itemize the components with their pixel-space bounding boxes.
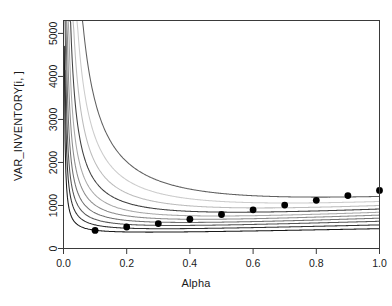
- chart-root: 0.00.20.40.60.81.0010002000300040005000 …: [0, 0, 392, 306]
- y-axis-title: VAR_INVENTORY[i, ]: [12, 46, 24, 206]
- x-tick-label: 0.2: [119, 257, 134, 269]
- curves-group: [64, 21, 380, 233]
- y-tick-label: 5000: [47, 22, 59, 46]
- series-line-5: [67, 21, 380, 220]
- x-tick-label: 1.0: [372, 257, 387, 269]
- x-tick-label: 0.0: [56, 257, 71, 269]
- data-point: [313, 197, 320, 204]
- y-tick-label: 0: [47, 245, 59, 251]
- y-tick-label: 1000: [47, 194, 59, 218]
- series-line-8: [72, 21, 379, 208]
- x-tick-label: 0.6: [246, 257, 261, 269]
- y-tick-label: 2000: [47, 151, 59, 175]
- data-point: [92, 227, 99, 234]
- series-line-7: [70, 21, 380, 213]
- plot-canvas: 0.00.20.40.60.81.0010002000300040005000: [0, 0, 392, 306]
- series-line-10: [80, 21, 379, 198]
- series-line-2: [65, 70, 379, 228]
- data-point: [155, 220, 162, 227]
- data-point: [218, 211, 225, 218]
- x-tick-label: 0.4: [183, 257, 198, 269]
- data-point: [123, 224, 130, 231]
- y-tick-label: 4000: [47, 65, 59, 89]
- y-tick-label: 3000: [47, 108, 59, 132]
- data-point: [281, 202, 288, 209]
- data-point: [187, 216, 194, 223]
- data-point: [345, 192, 352, 199]
- series-line-4: [66, 21, 380, 223]
- x-axis-title: Alpha: [0, 277, 392, 289]
- series-line-9: [75, 21, 379, 204]
- series-line-1: [64, 46, 379, 232]
- series-line-3: [65, 21, 379, 226]
- data-point: [250, 206, 257, 213]
- x-tick-label: 0.8: [309, 257, 324, 269]
